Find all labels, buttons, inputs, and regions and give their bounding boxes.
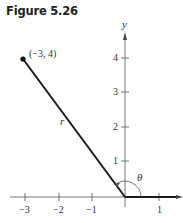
coordinate-diagram: y −3 −2 −1 1 1 2 3 4 (−3, 4) r θ: [0, 0, 183, 223]
y-tick-label: 1: [113, 155, 118, 166]
x-axis-arrow-icon: [176, 195, 183, 199]
point-marker: [20, 56, 25, 61]
x-tick-label: −1: [86, 204, 97, 215]
y-tick-label: 4: [113, 52, 118, 63]
point-label: (−3, 4): [29, 48, 56, 60]
segment-label-r: r: [60, 115, 65, 127]
x-tick-label: 1: [157, 204, 162, 215]
y-tick-label: 2: [113, 121, 118, 132]
angle-label-theta: θ: [137, 171, 143, 183]
y-tick-label: 3: [113, 86, 118, 97]
x-tick-label: −2: [53, 204, 64, 215]
y-axis-arrow-icon: [123, 32, 127, 40]
x-tick-label: −3: [19, 204, 30, 215]
terminal-side-r: [23, 59, 125, 197]
y-axis-label: y: [121, 18, 127, 30]
